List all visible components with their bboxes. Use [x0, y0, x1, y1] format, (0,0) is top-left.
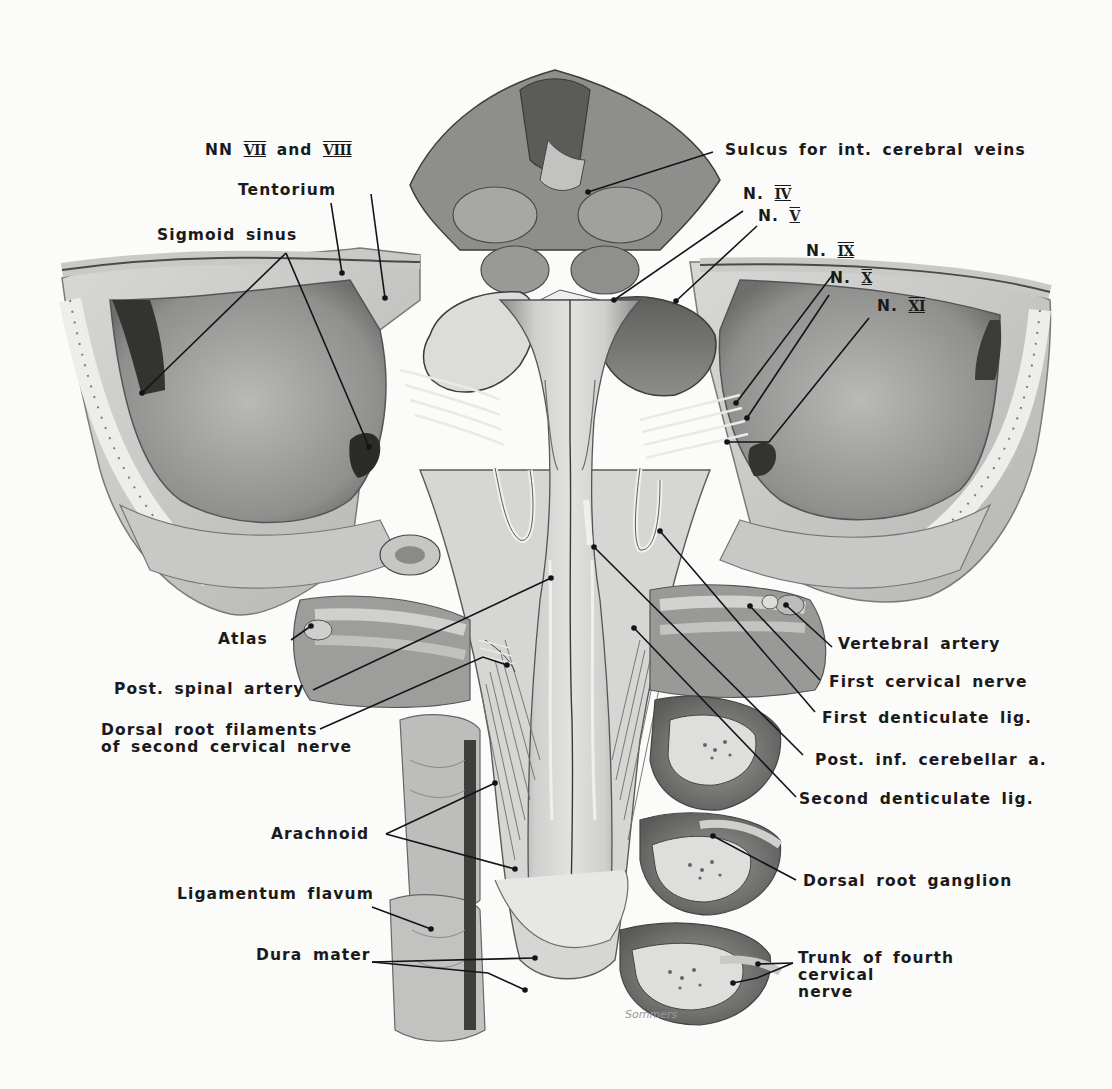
leader-dot [591, 544, 597, 550]
leader-dot [504, 662, 510, 668]
label-n-ix: N. IX [806, 243, 854, 260]
label-prefix: N. [806, 242, 827, 260]
artist-signature: Sommers [625, 1008, 677, 1021]
leader-dot [724, 439, 730, 445]
label-prefix: N. [743, 185, 764, 203]
leader-dot [631, 625, 637, 631]
leader-dot [733, 400, 739, 406]
leader-dot [744, 415, 750, 421]
leader-trunk-up [758, 963, 793, 964]
leader-dot [339, 270, 345, 276]
label-prefix: N. [758, 207, 779, 225]
illustration: Sommers [0, 0, 1112, 1089]
label-vertebral-artery: Vertebral artery [838, 636, 1001, 653]
leader-dot [366, 444, 372, 450]
label-ligamentum-flavum: Ligamentum flavum [177, 886, 374, 903]
leader-dot [532, 955, 538, 961]
leader-dot [139, 390, 145, 396]
label-second-denticulate-lig: Second denticulate lig. [799, 791, 1034, 808]
label-first-cervical-nerve: First cervical nerve [829, 674, 1028, 691]
roman-numeral: IX [838, 243, 854, 259]
label-tentorium: Tentorium [238, 182, 336, 199]
label-prefix: NN [205, 141, 233, 159]
leader-dot [428, 926, 434, 932]
leader-dot [522, 987, 528, 993]
roman-numeral: VII [244, 142, 266, 158]
leader-dot [673, 298, 679, 304]
label-nn-vii-viii: NN VII and VIII [205, 142, 352, 159]
label-trunk-fourth-cervical-nerve: Trunk of fourth cervical nerve [798, 950, 954, 1001]
roman-numeral: IV [775, 186, 791, 202]
label-post-spinal-artery: Post. spinal artery [114, 681, 304, 698]
leader-dot [548, 575, 554, 581]
roman-numeral: X [862, 270, 872, 286]
label-dorsal-root-ganglion: Dorsal root ganglion [803, 873, 1012, 890]
roman-numeral: V [790, 208, 800, 224]
label-atlas: Atlas [218, 631, 268, 648]
leader-dot [512, 866, 518, 872]
label-arachnoid: Arachnoid [271, 826, 369, 843]
label-first-denticulate-lig: First denticulate lig. [822, 710, 1032, 727]
leader-dot [747, 603, 753, 609]
label-post-inf-cerebellar-a: Post. inf. cerebellar a. [815, 752, 1047, 769]
label-n-iv: N. IV [743, 186, 791, 203]
label-prefix: N. [830, 269, 851, 287]
leader-dot [710, 833, 716, 839]
label-n-xi: N. XI [877, 298, 925, 315]
leader-dot [382, 295, 388, 301]
label-n-x: N. X [830, 270, 872, 287]
label-n-v: N. V [758, 208, 800, 225]
leader-dot [657, 528, 663, 534]
label-dorsal-root-filaments: Dorsal root filaments of second cervical… [101, 722, 352, 756]
leader-dot [730, 980, 736, 986]
leader-dot [492, 780, 498, 786]
label-conjunction: and [277, 141, 313, 159]
tectum [410, 70, 720, 294]
leader-dot [585, 189, 591, 195]
leader-dot [308, 623, 314, 629]
leader-dot [611, 297, 617, 303]
leader-dot [783, 602, 789, 608]
roman-numeral: VIII [323, 142, 352, 158]
roman-numeral: XI [909, 298, 925, 314]
leader-dot [755, 961, 761, 967]
label-prefix: N. [877, 297, 898, 315]
label-sigmoid-sinus: Sigmoid sinus [157, 227, 297, 244]
anatomical-figure: Sommers NN VII and VIII Tentorium Sigmoi… [0, 0, 1112, 1089]
label-dura-mater: Dura mater [256, 947, 371, 964]
label-sulcus-int-cerebral-veins: Sulcus for int. cerebral veins [725, 142, 1026, 159]
